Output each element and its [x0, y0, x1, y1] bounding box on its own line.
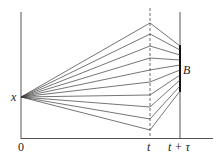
target-set-B-label: B: [183, 63, 191, 77]
sample-path-1: [21, 23, 180, 97]
sample-path-3: [21, 46, 180, 97]
time-t-tau-label: t + τ: [168, 140, 190, 154]
sample-paths: [21, 23, 180, 130]
start-point-label: x: [10, 90, 17, 104]
origin-label: 0: [18, 140, 24, 154]
time-t-label: t: [147, 140, 151, 154]
path-diagram: x 0 t t + τ B: [0, 0, 224, 157]
sample-path-7: [21, 75, 180, 97]
sample-path-5: [21, 65, 180, 97]
